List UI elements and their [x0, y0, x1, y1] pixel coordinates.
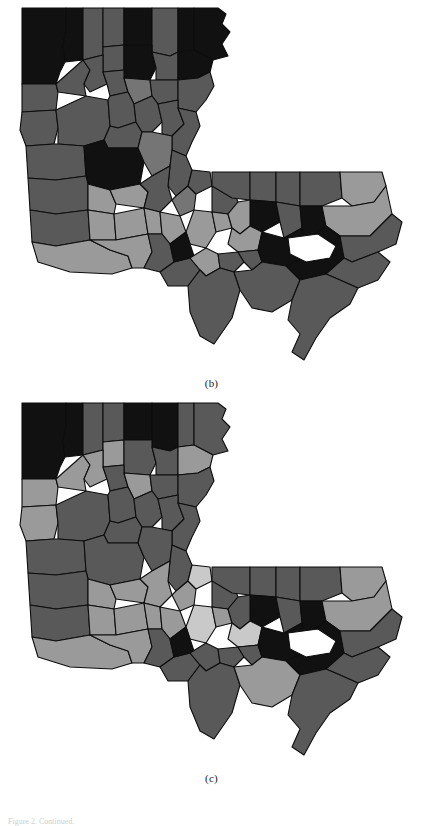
region-natchitoches	[56, 491, 110, 541]
region-ascension	[228, 226, 262, 252]
region-caddo	[22, 403, 66, 479]
region-union	[124, 8, 152, 45]
region-calcasieu	[30, 605, 90, 641]
region-iberville	[186, 210, 216, 248]
region-terrebonne	[188, 663, 240, 739]
region-beauregard	[28, 176, 88, 214]
region-sabine	[20, 505, 58, 541]
region-webster	[83, 8, 103, 60]
region-rapides	[84, 140, 144, 190]
region-east-carroll	[194, 403, 230, 455]
region-west-carroll	[178, 403, 194, 447]
region-plaquemines	[288, 274, 358, 360]
region-iberville	[186, 605, 216, 643]
region-grant	[104, 517, 142, 543]
region-lafourche	[234, 657, 300, 707]
region-tangipahoa-north	[276, 172, 300, 206]
region-tangipahoa-north	[276, 567, 300, 601]
region-bossier	[63, 403, 83, 457]
figure-container: (b)	[0, 0, 423, 826]
region-calcasieu	[30, 210, 90, 246]
region-ouachita	[124, 440, 156, 475]
region-jefferson-davis	[88, 210, 116, 240]
panel-caption-c: (c)	[0, 770, 423, 790]
region-desoto	[22, 84, 58, 112]
region-grant	[104, 122, 142, 148]
region-richland	[152, 52, 178, 80]
region-terrebonne	[188, 268, 240, 344]
region-ascension	[228, 621, 262, 647]
map-canvas-b	[0, 0, 423, 375]
map-canvas-c	[0, 395, 423, 770]
region-union	[124, 403, 152, 440]
region-vernon	[26, 144, 86, 180]
map-panel-b: (b)	[0, 0, 423, 395]
region-desoto	[22, 479, 58, 507]
region-richland	[152, 447, 178, 475]
region-jackson	[103, 70, 128, 96]
region-lafourche	[234, 262, 300, 312]
region-rapides	[84, 535, 144, 585]
figure-footer-text: Figure 2. Continued.	[8, 817, 413, 826]
region-bossier	[63, 8, 83, 62]
region-morehouse	[152, 8, 178, 56]
region-jackson	[103, 465, 128, 491]
panel-caption-b: (b)	[0, 375, 423, 395]
region-livingston	[250, 200, 280, 232]
region-livingston	[250, 595, 280, 627]
region-natchitoches	[56, 96, 110, 146]
region-claiborne	[103, 403, 124, 442]
region-st-helena	[250, 567, 276, 597]
region-west-carroll	[178, 8, 194, 52]
region-jefferson-davis	[88, 605, 116, 635]
region-ouachita	[124, 45, 156, 80]
region-morehouse	[152, 403, 178, 451]
region-lincoln	[103, 440, 124, 467]
louisiana-map-c	[0, 395, 423, 770]
region-east-carroll	[194, 8, 230, 60]
region-caddo	[22, 8, 66, 84]
region-lincoln	[103, 45, 124, 72]
map-panel-c: (c)	[0, 395, 423, 790]
region-beauregard	[28, 571, 88, 609]
region-st-helena	[250, 172, 276, 202]
region-washington	[300, 567, 342, 601]
region-sabine	[20, 110, 58, 146]
region-washington	[300, 172, 342, 206]
louisiana-map-b	[0, 0, 423, 375]
region-webster	[83, 403, 103, 455]
region-claiborne	[103, 8, 124, 47]
region-vernon	[26, 539, 86, 575]
region-plaquemines	[288, 669, 358, 755]
